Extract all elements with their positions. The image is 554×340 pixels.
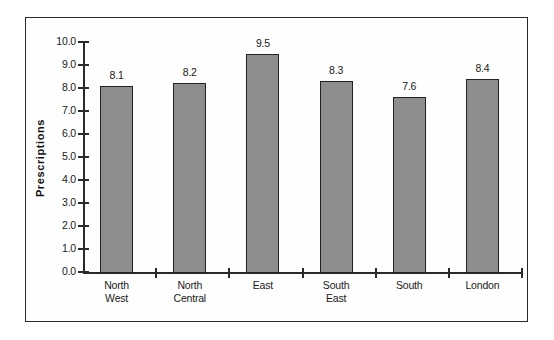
chart-figure: 0.01.02.03.04.05.06.07.08.09.010.0 8.18.…: [0, 0, 554, 340]
x-axis-label-line: North: [81, 279, 153, 292]
x-axis-category-label: NorthWest: [81, 279, 153, 304]
y-tick-label-text: 7.0: [48, 105, 76, 116]
y-tick-mark: [78, 271, 89, 273]
y-tick-label: 9.0: [46, 59, 76, 70]
x-tick-mark: [448, 268, 450, 278]
y-tick-label-text: 3.0: [48, 197, 76, 208]
bar-value-label: 8.2: [165, 67, 215, 78]
bar: [100, 86, 133, 273]
y-tick-label-text: 1.0: [48, 243, 76, 254]
x-tick-mark: [375, 268, 377, 278]
x-tick-mark: [521, 268, 523, 278]
y-tick-label-text: 5.0: [48, 151, 76, 162]
y-tick-label: 0.0: [46, 266, 76, 277]
y-tick-label: 5.0: [46, 151, 76, 162]
y-tick-mark: [78, 110, 89, 112]
y-tick-mark: [78, 41, 89, 43]
x-axis-label-line: East: [227, 279, 299, 292]
plot-area: 0.01.02.03.04.05.06.07.08.09.010.0 8.18.…: [0, 0, 554, 340]
x-tick-mark: [228, 268, 230, 278]
y-tick-label-text: 8.0: [48, 82, 76, 93]
y-tick-label-text: 4.0: [48, 174, 76, 185]
x-axis-category-label: London: [446, 279, 518, 292]
x-tick-mark: [302, 268, 304, 278]
bar: [246, 54, 279, 274]
x-axis-label-line: Central: [154, 292, 226, 305]
y-tick-label: 6.0: [46, 128, 76, 139]
bar: [320, 81, 353, 273]
y-tick-label-text: 10.0: [48, 36, 76, 47]
y-tick-label: 8.0: [46, 82, 76, 93]
y-tick-mark: [78, 64, 89, 66]
bar: [466, 79, 499, 273]
x-axis-label-line: South: [300, 279, 372, 292]
y-axis-title: Prescriptions: [32, 68, 48, 248]
x-axis-label-line: East: [300, 292, 372, 305]
bar-value-label: 8.3: [311, 65, 361, 76]
x-axis-label-line: West: [81, 292, 153, 305]
y-tick-label: 4.0: [46, 174, 76, 185]
y-tick-mark: [78, 133, 89, 135]
y-tick-label: 3.0: [46, 197, 76, 208]
bar: [173, 83, 206, 273]
y-tick-label-text: 2.0: [48, 220, 76, 231]
x-axis-category-label: East: [227, 279, 299, 292]
x-axis-label-line: South: [373, 279, 445, 292]
bar-value-label: 7.6: [384, 81, 434, 92]
bar: [393, 97, 426, 273]
x-axis-category-label: SouthEast: [300, 279, 372, 304]
bar-value-label: 8.1: [92, 70, 142, 81]
bar-value-label: 9.5: [238, 38, 288, 49]
y-tick-label-text: 9.0: [48, 59, 76, 70]
x-tick-mark: [155, 268, 157, 278]
y-tick-mark: [78, 156, 89, 158]
y-tick-label: 10.0: [46, 36, 76, 47]
y-tick-label: 7.0: [46, 105, 76, 116]
y-tick-label-text: 0.0: [48, 266, 76, 277]
x-axis-category-label: NorthCentral: [154, 279, 226, 304]
x-axis-label-line: North: [154, 279, 226, 292]
y-tick-mark: [78, 87, 89, 89]
y-tick-label: 2.0: [46, 220, 76, 231]
y-tick-label-text: 6.0: [48, 128, 76, 139]
y-tick-mark: [78, 225, 89, 227]
y-tick-mark: [78, 202, 89, 204]
y-tick-mark: [78, 248, 89, 250]
x-axis-category-label: South: [373, 279, 445, 292]
bar-value-label: 8.4: [457, 63, 507, 74]
y-tick-mark: [78, 179, 89, 181]
y-tick-label: 1.0: [46, 243, 76, 254]
x-axis-label-line: London: [446, 279, 518, 292]
